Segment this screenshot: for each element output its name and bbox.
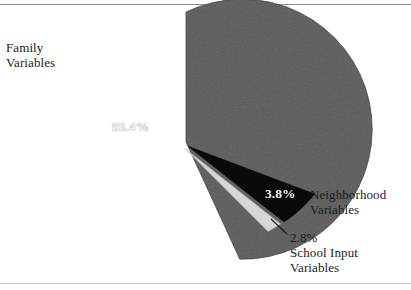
slice-label-school-input-variables: 2.8% School Input Variables	[290, 230, 358, 275]
slice-percent-family-variables: 93.4%	[112, 119, 149, 134]
slice-label-neighborhood-variables: Neighborhood Variables	[310, 187, 386, 217]
pie-slice-family-variables	[186, 0, 372, 259]
pie-chart-figure: Family Variables 93.4% 3.8% Neighborhood…	[0, 0, 411, 290]
slice-label-family-variables: Family Variables	[6, 40, 55, 70]
slice-percent-neighborhood-variables: 3.8%	[265, 186, 295, 201]
